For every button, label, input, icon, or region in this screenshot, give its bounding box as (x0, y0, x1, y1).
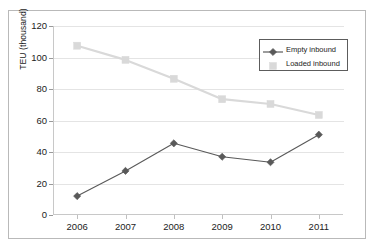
legend-swatch-icon (260, 58, 286, 70)
series-line (77, 135, 319, 196)
chart-legend: Empty inboundLoaded inbound (259, 39, 348, 71)
y-axis-title: TEU (thousand) (18, 0, 28, 94)
y-tick-label: 40 (23, 147, 47, 157)
data-point (74, 42, 81, 49)
data-point (315, 131, 322, 138)
x-tick-label: 2009 (199, 221, 245, 232)
y-tick-label: 20 (23, 179, 47, 189)
x-tick-label: 2011 (296, 221, 342, 232)
data-point (267, 159, 274, 166)
data-point (74, 193, 81, 200)
x-tick-label: 2007 (103, 221, 149, 232)
data-point (122, 56, 129, 63)
data-point (219, 96, 226, 103)
x-tick-label: 2006 (54, 221, 100, 232)
data-point (267, 100, 274, 107)
x-tick-label: 2008 (151, 221, 197, 232)
legend-label: Empty inbound (286, 45, 336, 54)
y-tick-label: 60 (23, 116, 47, 126)
legend-item-empty-inbound[interactable]: Empty inbound (260, 42, 349, 57)
legend-swatch-icon (260, 44, 286, 56)
legend-label: Loaded inbound (286, 59, 340, 68)
data-point (219, 153, 226, 160)
chart-figure: 020406080100120 TEU (thousand) 200620072… (0, 0, 376, 251)
legend-item-loaded-inbound[interactable]: Loaded inbound (260, 56, 349, 71)
series-empty-inbound (74, 131, 323, 200)
data-point (170, 75, 177, 82)
data-point (122, 167, 129, 174)
x-tick-label: 2010 (248, 221, 294, 232)
data-point (315, 111, 322, 118)
y-tick-label: 0 (23, 210, 47, 220)
data-point (170, 140, 177, 147)
